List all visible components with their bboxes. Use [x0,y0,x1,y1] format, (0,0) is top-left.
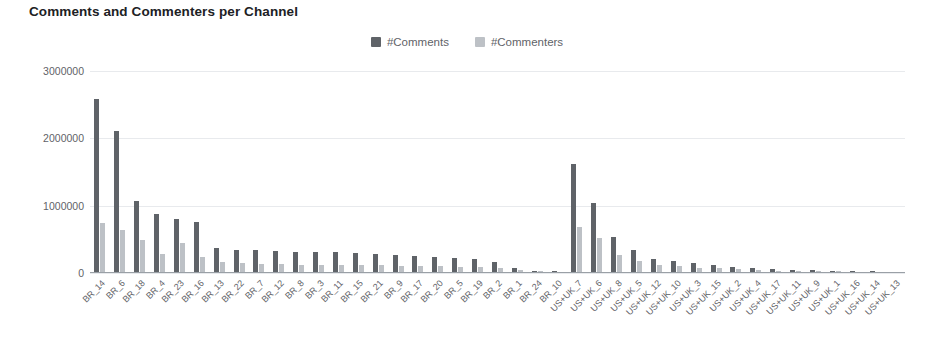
bar-group[interactable] [468,71,488,272]
bar-group[interactable] [766,71,786,272]
bar-commenters[interactable] [657,265,662,272]
bar-comments[interactable] [214,248,219,272]
bar-comments[interactable] [154,214,159,272]
bar-comments[interactable] [432,257,437,272]
bar-group[interactable] [547,71,567,272]
bar-group[interactable] [229,71,249,272]
bar-group[interactable] [885,71,905,272]
bar-comments[interactable] [234,250,239,272]
bar-comments[interactable] [452,258,457,272]
bar-group[interactable] [507,71,527,272]
bar-comments[interactable] [353,253,358,272]
bar-comments[interactable] [293,252,298,272]
bar-group[interactable] [209,71,229,272]
bar-commenters[interactable] [577,227,582,272]
bar-comments[interactable] [94,99,99,272]
bar-comments[interactable] [393,255,398,272]
bar-group[interactable] [845,71,865,272]
bar-group[interactable] [368,71,388,272]
bar-comments[interactable] [253,250,258,272]
x-axis-label-cell: BR_11 [329,276,349,346]
bar-group[interactable] [488,71,508,272]
bar-group[interactable] [189,71,209,272]
bar-group[interactable] [627,71,647,272]
bar-commenters[interactable] [140,240,145,272]
bar-group[interactable] [786,71,806,272]
bar-group[interactable] [388,71,408,272]
bar-group[interactable] [428,71,448,272]
bar-group[interactable] [309,71,329,272]
bar-group[interactable] [130,71,150,272]
bar-group[interactable] [806,71,826,272]
bar-commenters[interactable] [379,265,384,272]
bar-comments[interactable] [412,256,417,272]
bar-group[interactable] [269,71,289,272]
bar-comments[interactable] [472,259,477,272]
bar-group[interactable] [329,71,349,272]
bar-group[interactable] [448,71,468,272]
bar-group[interactable] [408,71,428,272]
bar-comments[interactable] [671,261,676,272]
bar-commenters[interactable] [120,230,125,272]
bar-comments[interactable] [571,164,576,272]
bar-comments[interactable] [373,254,378,272]
bar-comments[interactable] [134,201,139,272]
bar-comments[interactable] [313,252,318,272]
bar-group[interactable] [706,71,726,272]
legend-item-commenters[interactable]: #Commenters [475,36,563,48]
bar-comments[interactable] [651,259,656,272]
bar-comments[interactable] [114,131,119,272]
bar-group[interactable] [865,71,885,272]
bar-group[interactable] [110,71,130,272]
bar-group[interactable] [647,71,667,272]
bar-group[interactable] [527,71,547,272]
x-axis-label-cell: BR_21 [368,276,388,346]
bar-commenters[interactable] [160,254,165,272]
bar-commenters[interactable] [637,261,642,272]
bar-group[interactable] [348,71,368,272]
bar-commenters[interactable] [359,265,364,272]
bar-commenters[interactable] [200,257,205,272]
legend-item-comments[interactable]: #Comments [371,36,449,48]
bar-group[interactable] [150,71,170,272]
bar-comments[interactable] [611,237,616,272]
bar-comments[interactable] [711,265,716,272]
bar-commenters[interactable] [279,264,284,272]
bar-group[interactable] [567,71,587,272]
bar-comments[interactable] [591,203,596,272]
bar-commenters[interactable] [339,265,344,272]
bar-comments[interactable] [333,252,338,272]
bar-comments[interactable] [273,251,278,272]
bar-group[interactable] [666,71,686,272]
bar-group[interactable] [249,71,269,272]
x-axis-label-cell: BR_12 [269,276,289,346]
bar-comments[interactable] [691,263,696,272]
bar-commenters[interactable] [597,238,602,272]
bar-group[interactable] [726,71,746,272]
bar-commenters[interactable] [240,263,245,272]
bar-comments[interactable] [174,219,179,272]
bar-commenters[interactable] [220,262,225,272]
bar-comments[interactable] [194,222,199,272]
bar-group[interactable] [746,71,766,272]
bar-comments[interactable] [631,250,636,272]
y-axis-tick-label: 3000000 [43,65,84,77]
bar-group[interactable] [289,71,309,272]
bar-commenters[interactable] [319,265,324,272]
bar-group[interactable] [825,71,845,272]
bar-commenters[interactable] [299,265,304,272]
bar-comments[interactable] [492,262,497,272]
bar-commenters[interactable] [259,264,264,272]
x-axis-label-cell: BR_8 [289,276,309,346]
y-axis-tick-label: 0 [78,267,84,279]
x-axis-label-cell: BR_2 [488,276,508,346]
x-axis-label-cell: BR_9 [388,276,408,346]
bar-group[interactable] [607,71,627,272]
bar-group[interactable] [587,71,607,272]
bar-group[interactable] [170,71,190,272]
bar-group[interactable] [90,71,110,272]
bar-commenters[interactable] [180,243,185,272]
bar-group[interactable] [686,71,706,272]
bar-commenters[interactable] [617,255,622,272]
bar-commenters[interactable] [100,223,105,272]
